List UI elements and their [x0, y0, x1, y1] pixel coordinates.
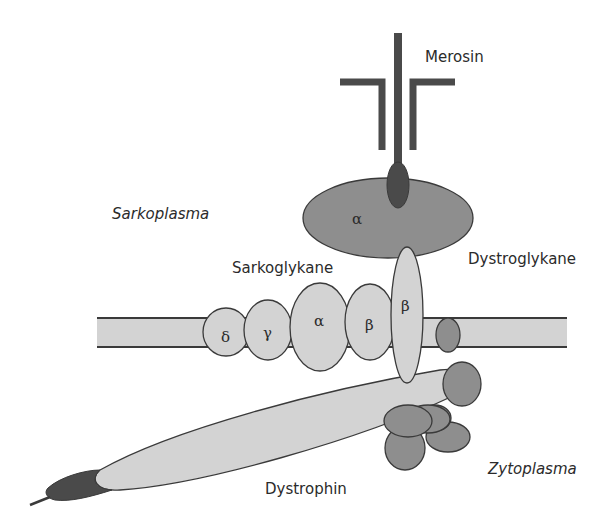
alpha-dystroglycan-label: α [352, 210, 362, 228]
sarcoglycan-complex: δ γ α β [203, 283, 395, 371]
label-sarkoplasma: Sarkoplasma [112, 205, 209, 223]
label-merosin: Merosin [425, 48, 484, 66]
beta-dystroglycan-label: β [401, 297, 410, 315]
membrane-protein [436, 318, 460, 352]
sarcoglycan-delta-label: δ [221, 328, 230, 346]
label-dystroglykane: Dystroglykane [468, 250, 576, 268]
beta-dystroglycan [391, 247, 423, 383]
label-sarkoglykane: Sarkoglykane [232, 259, 333, 277]
sarcoglycan-gamma-label: γ [263, 324, 272, 342]
sarcoglycan-alpha-label: α [314, 312, 324, 330]
sarcoglycan-beta-label: β [365, 316, 374, 334]
merosin-head [387, 162, 409, 208]
label-dystrophin: Dystrophin [265, 480, 347, 498]
dystrophin-glycoprotein-complex-diagram: α δ γ α β β Merosin Sarkoplasma Sarkogly… [0, 0, 601, 527]
label-zytoplasma: Zytoplasma [487, 460, 577, 478]
